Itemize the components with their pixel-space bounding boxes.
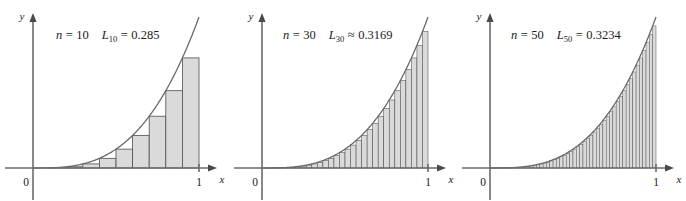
n-symbol: n [283, 28, 289, 42]
sum-symbol: L [556, 28, 564, 42]
x-axis-label: x [219, 173, 225, 185]
riemann-bar [610, 112, 613, 168]
y-axis-arrow-icon [258, 13, 265, 22]
sum-value: 0.3169 [358, 28, 392, 42]
riemann-bar [586, 139, 589, 168]
sum-subscript: 30 [336, 34, 345, 44]
riemann-bar [99, 158, 116, 168]
riemann-bar [323, 161, 329, 168]
y-axis-arrow-icon [486, 13, 493, 22]
x-axis-arrow-icon [665, 164, 674, 171]
riemann-bar [646, 43, 649, 168]
riemann-bar [643, 50, 646, 168]
riemann-bar [362, 135, 368, 168]
sum-value: 0.3234 [586, 28, 621, 42]
chart-svg-n10: y x 0 1 n=10L10=0.285 [0, 0, 229, 201]
riemann-bar [600, 125, 603, 168]
riemann-bar [580, 144, 583, 168]
riemann-bar [378, 116, 384, 168]
riemann-bar [626, 85, 629, 168]
riemann-bar [570, 151, 573, 168]
y-axis-arrow-icon [29, 13, 36, 22]
x-axis-label: x [676, 173, 682, 185]
n-symbol: n [56, 28, 62, 42]
riemann-bar [563, 155, 566, 168]
riemann-bar [636, 65, 639, 168]
sum-subscript: 10 [109, 34, 118, 44]
riemann-bar [616, 102, 619, 168]
riemann-bar [629, 79, 632, 169]
riemann-bar [653, 26, 656, 168]
riemann-bar [422, 32, 428, 168]
riemann-bar [406, 70, 412, 168]
riemann-bar [566, 153, 569, 168]
sum-relation: ≈ [348, 28, 355, 42]
x-axis-arrow-icon [208, 164, 217, 171]
riemann-bar [182, 58, 199, 168]
n-symbol: n [511, 28, 517, 42]
riemann-bar [593, 132, 596, 168]
bars-group-n10 [50, 58, 199, 168]
riemann-bar [351, 145, 357, 168]
y-axis-label: y [248, 10, 254, 22]
riemann-bar [367, 130, 373, 168]
riemann-bar [546, 162, 549, 168]
y-axis-label: y [476, 10, 482, 22]
sum-subscript: 50 [564, 34, 573, 44]
riemann-bar [417, 45, 423, 168]
n-value: 10 [76, 28, 89, 42]
x-tick-label-1: 1 [653, 176, 659, 188]
riemann-bar [149, 116, 166, 168]
sum-relation: = [121, 28, 128, 42]
origin-label: 0 [23, 176, 29, 188]
riemann-bar [384, 108, 390, 168]
sum-symbol: L [328, 28, 336, 42]
chart-panel-n30: y x 0 1 n=30L30≈0.3169 [229, 0, 458, 201]
n-value: 50 [531, 28, 544, 42]
n-equals: = [521, 28, 528, 42]
origin-label: 0 [252, 176, 258, 188]
annotation-n50: n=50L50=0.3234 [511, 28, 621, 44]
riemann-bar [560, 157, 563, 168]
x-axis-label: x [448, 173, 454, 185]
n-equals: = [293, 28, 300, 42]
riemann-bar [345, 149, 351, 168]
riemann-bar [590, 135, 593, 168]
riemann-bar [356, 141, 362, 168]
riemann-bar [613, 107, 616, 168]
riemann-bar [339, 153, 345, 168]
riemann-bar [583, 141, 586, 168]
riemann-sum-figure: y x 0 1 n=10L10=0.285 y x 0 1 n=30L30≈0.… [0, 0, 686, 201]
chart-panel-n10: y x 0 1 n=10L10=0.285 [0, 0, 229, 201]
riemann-bar [606, 116, 609, 168]
x-tick-label-1: 1 [196, 176, 202, 188]
riemann-bar [556, 158, 559, 168]
riemann-bar [550, 161, 553, 168]
riemann-bar [411, 58, 417, 168]
riemann-bar [166, 91, 183, 168]
annotation-n10: n=10L10=0.285 [56, 28, 159, 44]
riemann-bar [639, 58, 642, 168]
sum-value: 0.285 [131, 28, 159, 42]
riemann-bar [619, 96, 622, 168]
riemann-bar [596, 128, 599, 168]
riemann-bar [633, 72, 636, 168]
riemann-bar [116, 149, 133, 168]
n-value: 30 [303, 28, 316, 42]
riemann-bar [389, 100, 395, 168]
n-equals: = [66, 28, 73, 42]
riemann-bar [400, 81, 406, 168]
chart-svg-n30: y x 0 1 n=30L30≈0.3169 [229, 0, 458, 201]
riemann-bar [328, 158, 334, 168]
annotation-n30: n=30L30≈0.3169 [283, 28, 393, 44]
riemann-bar [553, 160, 556, 168]
riemann-bar [334, 156, 340, 168]
sum-symbol: L [101, 28, 109, 42]
riemann-bar [317, 162, 323, 168]
riemann-bar [603, 121, 606, 168]
y-axis-label: y [19, 10, 25, 22]
riemann-bar [649, 34, 652, 168]
origin-label: 0 [480, 176, 486, 188]
chart-svg-n50: y x 0 1 n=50L50=0.3234 [457, 0, 686, 201]
riemann-bar [395, 91, 401, 168]
